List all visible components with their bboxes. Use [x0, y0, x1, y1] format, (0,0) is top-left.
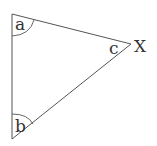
- angle-label-b: b: [15, 116, 26, 136]
- angle-label-a: a: [15, 14, 25, 34]
- point-label-x: X: [134, 36, 147, 56]
- triangle-diagram: a b c X: [0, 0, 157, 146]
- angle-label-c: c: [109, 38, 119, 58]
